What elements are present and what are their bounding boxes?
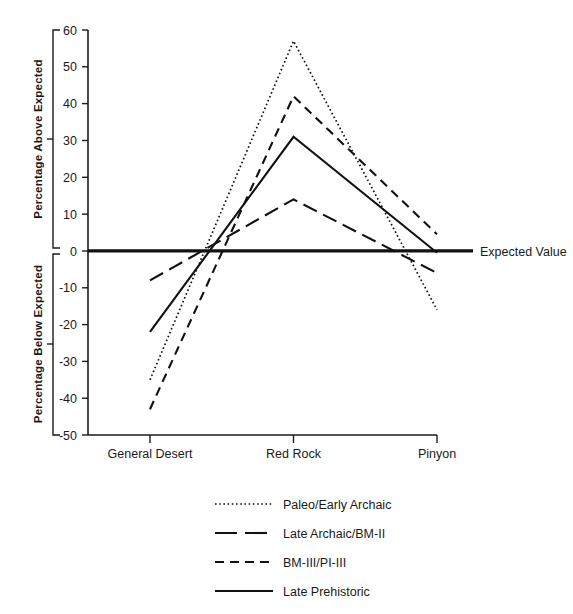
axis-label-brackets: Percentage Above Expected Percentage Bel…	[32, 30, 60, 435]
expected-value-reference: Expected Value	[88, 245, 567, 259]
series-group	[150, 41, 437, 409]
legend: Paleo/Early Archaic Late Archaic/BM-II B…	[215, 498, 391, 599]
y-tick-label-0: 0	[70, 245, 77, 259]
y-tick-label-20: 20	[63, 171, 77, 185]
y-tick-label-60: 60	[63, 24, 77, 38]
x-category-label-red-rock: Red Rock	[266, 447, 322, 461]
legend-item-paleo-early-archaic: Paleo/Early Archaic	[215, 498, 391, 512]
x-category-label-pinyon: Pinyon	[418, 447, 456, 461]
series-line-late-archaic-bm-ii	[150, 199, 437, 280]
legend-label-late-prehistoric: Late Prehistoric	[283, 585, 370, 599]
y-tick-label-10: 10	[63, 208, 77, 222]
legend-label-bm-iii-pi-iii: BM-III/PI-III	[283, 556, 346, 570]
y-tick-label-30: 30	[63, 134, 77, 148]
y-tick-label-minus40: -40	[59, 392, 77, 406]
y-tick-label-minus50: -50	[59, 429, 77, 443]
series-line-paleo-early-archaic	[150, 41, 437, 380]
y-axis-title-below: Percentage Below Expected	[32, 265, 44, 423]
expected-value-label: Expected Value	[480, 245, 567, 259]
series-line-late-prehistoric	[150, 137, 437, 332]
legend-item-late-prehistoric: Late Prehistoric	[215, 585, 370, 599]
y-axis: 60 50 40 30 20 10 0 -10 -20 -30 -40 -50	[59, 24, 88, 443]
y-tick-label-minus10: -10	[59, 281, 77, 295]
legend-label-late-archaic-bm-ii: Late Archaic/BM-II	[283, 527, 385, 541]
line-chart: 60 50 40 30 20 10 0 -10 -20 -30 -40 -50 …	[0, 0, 573, 614]
y-tick-label-minus30: -30	[59, 355, 77, 369]
x-axis: General Desert Red Rock Pinyon	[88, 435, 456, 461]
y-tick-label-40: 40	[63, 97, 77, 111]
y-axis-title-above: Percentage Above Expected	[32, 59, 44, 218]
figure-container: 60 50 40 30 20 10 0 -10 -20 -30 -40 -50 …	[0, 0, 573, 614]
upper-bracket	[53, 30, 60, 248]
x-category-label-general-desert: General Desert	[108, 447, 193, 461]
y-tick-label-minus20: -20	[59, 318, 77, 332]
legend-item-bm-iii-pi-iii: BM-III/PI-III	[215, 556, 346, 570]
series-line-bm-iii-pi-iii	[150, 96, 437, 409]
y-tick-label-50: 50	[63, 60, 77, 74]
legend-label-paleo-early-archaic: Paleo/Early Archaic	[283, 498, 391, 512]
legend-item-late-archaic-bm-ii: Late Archaic/BM-II	[215, 527, 385, 541]
